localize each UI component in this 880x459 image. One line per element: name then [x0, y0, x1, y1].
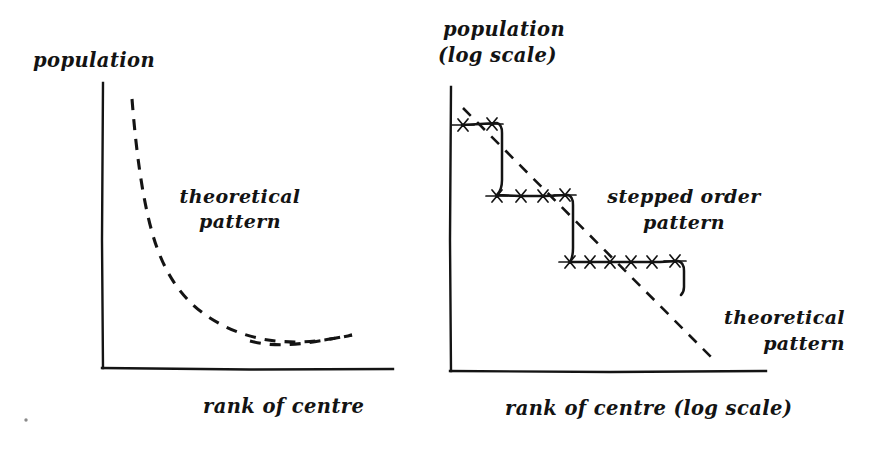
left-y-axis-label: population	[33, 49, 155, 72]
stepped-order-pattern-label-line2: pattern	[643, 211, 725, 233]
figure-canvas: population rank of centre theoretical pa…	[0, 0, 880, 459]
right-x-axis-label: rank of centre (log scale)	[505, 397, 793, 420]
left-theoretical-pattern-label-line2: pattern	[199, 210, 281, 232]
right-theoretical-pattern-label-line1: theoretical	[724, 306, 845, 328]
star-marker	[641, 256, 663, 268]
figure-root: population rank of centre theoretical pa…	[0, 0, 880, 459]
star-marker	[452, 119, 474, 131]
stepped-order-pattern-label-line1: stepped order	[606, 185, 762, 207]
right-y-axis-label-line1: population	[443, 18, 565, 41]
star-marker	[510, 190, 532, 202]
right-y-axis	[450, 87, 451, 371]
star-marker	[620, 256, 642, 268]
star-marker	[599, 256, 621, 268]
right-theoretical-line	[463, 108, 713, 359]
star-marker	[559, 256, 581, 268]
star-marker	[532, 190, 554, 202]
right-theoretical-pattern-label-line2: pattern	[763, 332, 845, 354]
star-marker	[486, 190, 508, 202]
ink-speck	[24, 418, 27, 421]
right-y-axis-label-line2: (log scale)	[438, 44, 557, 67]
right-x-axis	[450, 371, 766, 372]
star-marker	[579, 256, 601, 268]
left-theoretical-pattern-label-line1: theoretical	[180, 185, 301, 207]
left-panel: population rank of centre theoretical pa…	[33, 49, 393, 418]
right-panel: population (log scale) rank of centre (l…	[438, 18, 845, 420]
left-y-axis	[102, 83, 103, 368]
left-x-axis	[102, 368, 393, 370]
left-x-axis-label: rank of centre	[203, 395, 364, 418]
right-stepped-order-curve	[462, 123, 684, 295]
